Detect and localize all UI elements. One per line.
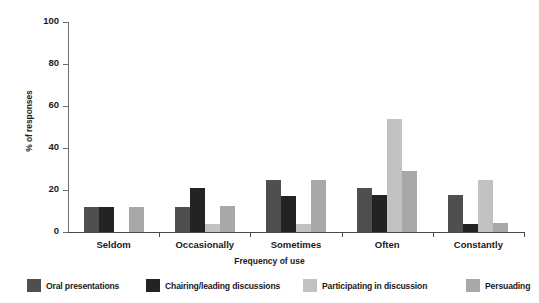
bar: [311, 180, 326, 233]
bar: [372, 195, 387, 232]
legend-swatch: [303, 279, 317, 292]
bar: [266, 180, 281, 233]
bar: [463, 224, 478, 232]
bar-group: [357, 22, 417, 232]
legend-swatch: [27, 279, 41, 292]
bar: [357, 188, 372, 232]
x-axis-tick-mark: [524, 232, 525, 237]
x-axis-title: Frequency of use: [0, 256, 539, 266]
y-axis-tick-label: 0: [54, 225, 59, 236]
legend-label: Participating in discussion: [322, 281, 427, 291]
legend-item[interactable]: Participating in discussion: [303, 279, 427, 292]
bar: [387, 119, 402, 232]
legend-swatch: [466, 279, 480, 292]
bar-group: [266, 22, 326, 232]
bar: [296, 224, 311, 232]
x-axis-tick-mark: [433, 232, 434, 237]
y-axis-title: % of responses: [24, 66, 34, 176]
plot-area: [68, 22, 524, 232]
y-axis-tick-label: 60: [48, 99, 59, 110]
x-axis-category-label: Seldom: [68, 239, 159, 250]
bar: [402, 171, 417, 232]
bar: [493, 223, 508, 232]
x-axis-tick-mark: [250, 232, 251, 237]
bar: [205, 224, 220, 232]
y-axis-tick-label: 100: [43, 15, 59, 26]
bar: [190, 188, 205, 232]
x-axis-line: [68, 232, 524, 233]
bar: [99, 207, 114, 232]
y-axis-tick-label: 20: [48, 183, 59, 194]
bar: [281, 196, 296, 232]
legend-item[interactable]: Chairing/leading discussions: [146, 279, 280, 292]
legend-label: Persuading: [485, 281, 530, 291]
bar-chart-figure: % of responses 020406080100 SeldomOccasi…: [0, 0, 539, 303]
chart-legend: Oral presentationsChairing/leading discu…: [0, 279, 539, 303]
bar: [478, 180, 493, 233]
bar-group: [84, 22, 144, 232]
bar: [175, 207, 190, 232]
x-axis-category-label: Occasionally: [159, 239, 250, 250]
y-axis-tick-label: 80: [48, 57, 59, 68]
legend-label: Chairing/leading discussions: [165, 281, 280, 291]
legend-item[interactable]: Oral presentations: [27, 279, 119, 292]
legend-item[interactable]: Persuading: [466, 279, 530, 292]
x-axis-category-label: Constantly: [433, 239, 524, 250]
bar: [220, 206, 235, 232]
y-axis-tick-label: 40: [48, 141, 59, 152]
x-axis-tick-mark: [159, 232, 160, 237]
bar: [129, 207, 144, 232]
legend-swatch: [146, 279, 160, 292]
bar: [84, 207, 99, 232]
x-axis-tick-mark: [342, 232, 343, 237]
legend-label: Oral presentations: [46, 281, 119, 291]
bar-group: [448, 22, 508, 232]
bar-group: [175, 22, 235, 232]
x-axis-category-label: Often: [342, 239, 433, 250]
x-axis-category-label: Sometimes: [250, 239, 341, 250]
bar: [448, 195, 463, 232]
